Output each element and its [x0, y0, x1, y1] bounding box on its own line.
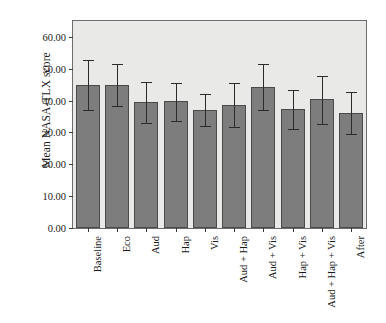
x-axis-tick-mark [176, 228, 177, 232]
error-bar-cap-lower [229, 127, 240, 128]
error-bar-line [117, 64, 118, 107]
error-bar-cap-lower [258, 110, 269, 111]
y-axis-tick-mark [69, 164, 73, 165]
x-axis-tick-label: Eco [121, 236, 132, 252]
x-axis-tick-mark [205, 228, 206, 232]
error-bar-line [88, 60, 89, 110]
error-bar-cap-lower [317, 124, 328, 125]
y-axis-tick-label: 20.00 [42, 159, 66, 170]
x-axis-tick-mark [234, 228, 235, 232]
error-bar-line [351, 92, 352, 134]
y-axis-tick-mark [69, 101, 73, 102]
error-bar-cap-upper [229, 83, 240, 84]
error-bar-cap-lower [200, 126, 211, 127]
y-axis-tick-label: 10.00 [42, 191, 66, 202]
x-axis-tick-label: Hap [180, 236, 191, 254]
y-axis-tick-mark [69, 196, 73, 197]
bar [193, 110, 217, 228]
x-axis-tick-label: Baseline [92, 236, 103, 272]
nasa-tlx-bar-chart-figure: Mean NASA-TLX score 0.0010.0020.0030.004… [0, 0, 386, 323]
error-bar-cap-lower [83, 110, 94, 111]
error-bar-line [234, 83, 235, 127]
y-axis-title: Mean NASA-TLX score [40, 20, 52, 200]
error-bar-cap-lower [112, 106, 123, 107]
y-axis-tick-mark [69, 37, 73, 38]
error-bar-cap-upper [200, 94, 211, 95]
error-bar-line [146, 82, 147, 123]
y-axis-tick-label: 30.00 [42, 127, 66, 138]
error-bar-line [293, 90, 294, 129]
x-axis-tick-label: Aud [150, 236, 161, 254]
error-bar-line [205, 94, 206, 126]
y-axis-tick-mark [69, 69, 73, 70]
x-axis-tick-mark [146, 228, 147, 232]
y-axis-tick-label: 0.00 [48, 223, 66, 234]
error-bar-cap-upper [112, 64, 123, 65]
plot-inner: 0.0010.0020.0030.0040.0050.0060.00Baseli… [73, 21, 366, 228]
x-axis-tick-label: Vis [209, 236, 220, 250]
error-bar-cap-lower [288, 129, 299, 130]
error-bar-line [322, 76, 323, 124]
error-bar-cap-upper [317, 76, 328, 77]
error-bar-cap-upper [171, 83, 182, 84]
x-axis-tick-label: Aud + Hap [238, 236, 249, 283]
x-axis-tick-mark [88, 228, 89, 232]
error-bar-cap-upper [288, 90, 299, 91]
x-axis-tick-mark [263, 228, 264, 232]
error-bar-cap-lower [346, 134, 357, 135]
error-bar-cap-upper [83, 60, 94, 61]
x-axis-tick-mark [117, 228, 118, 232]
x-axis-tick-label: Aud + Vis [267, 236, 278, 279]
error-bar-cap-upper [258, 64, 269, 65]
plot-area: 0.0010.0020.0030.0040.0050.0060.00Baseli… [72, 20, 367, 229]
y-axis-tick-mark [69, 132, 73, 133]
error-bar-cap-upper [141, 82, 152, 83]
x-axis-tick-mark [322, 228, 323, 232]
x-axis-tick-label: After [355, 236, 366, 258]
x-axis-tick-mark [351, 228, 352, 232]
error-bar-cap-lower [171, 121, 182, 122]
x-axis-tick-mark [293, 228, 294, 232]
error-bar-line [263, 64, 264, 110]
error-bar-line [176, 83, 177, 121]
y-axis-tick-label: 50.00 [42, 63, 66, 74]
y-axis-tick-mark [69, 228, 73, 229]
x-axis-tick-label: Aud + Hap + Vis [326, 236, 337, 308]
y-axis-tick-label: 40.00 [42, 95, 66, 106]
x-axis-tick-label: Hap + Vis [297, 236, 308, 278]
error-bar-cap-lower [141, 123, 152, 124]
y-axis-tick-label: 60.00 [42, 31, 66, 42]
error-bar-cap-upper [346, 92, 357, 93]
